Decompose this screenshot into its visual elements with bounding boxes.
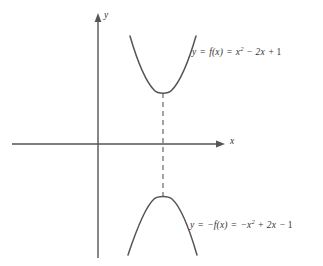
lower-eq-term-const: − 1 [279,220,294,230]
upper-eq-equals-1: = [199,47,207,57]
math-figure: y x y = f(x) = x2 − 2x + 1 y = −f(x) = −… [0,0,323,266]
upper-eq-y: y [192,47,196,57]
lower-eq-term-2x: + 2x [258,220,277,230]
upper-eq-term-const: + 1 [267,47,282,57]
x-axis-label: x [230,136,234,146]
upper-parabola-curve [130,36,196,93]
lower-equation-label: y = −f(x) = −x2 + 2x − 1 [190,218,294,230]
y-axis-arrowhead [95,13,102,22]
lower-parabola-curve [128,196,197,255]
lower-eq-exponent: 2 [251,218,255,225]
upper-equation-label: y = f(x) = x2 − 2x + 1 [192,45,283,57]
y-axis-label: y [104,10,108,20]
x-axis-arrowhead [216,141,225,148]
upper-eq-fx: f(x) [209,47,223,57]
upper-eq-equals-2: = [226,47,234,57]
lower-eq-x: −x [240,220,251,230]
upper-eq-term-2x: − 2x [246,47,265,57]
lower-eq-y: y [190,220,194,230]
lower-eq-equals-2: = [230,220,238,230]
upper-eq-exponent: 2 [240,45,244,52]
lower-eq-fx: −f(x) [207,220,228,230]
lower-eq-equals-1: = [197,220,205,230]
